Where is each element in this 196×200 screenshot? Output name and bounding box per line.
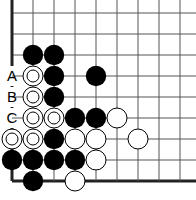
white-stone-marked bbox=[44, 108, 64, 128]
white-stone-marked bbox=[23, 66, 43, 86]
black-stone bbox=[23, 150, 43, 170]
black-stone bbox=[44, 87, 64, 107]
coordinate-label-c: C bbox=[7, 109, 18, 126]
white-stone bbox=[86, 129, 106, 149]
white-stone-marked bbox=[23, 87, 43, 107]
coordinate-label-a: A bbox=[7, 67, 17, 84]
black-stone bbox=[86, 108, 106, 128]
white-stone bbox=[86, 150, 106, 170]
black-stone bbox=[44, 150, 64, 170]
black-stone bbox=[65, 150, 85, 170]
white-stone-marked bbox=[23, 108, 43, 128]
white-stone-marked bbox=[2, 129, 22, 149]
white-stone-marked bbox=[23, 129, 43, 149]
black-stone bbox=[23, 45, 43, 65]
white-stone bbox=[65, 171, 85, 191]
black-stone bbox=[44, 66, 64, 86]
white-stone bbox=[107, 108, 127, 128]
black-stone bbox=[23, 171, 43, 191]
white-stone bbox=[65, 129, 85, 149]
white-stone bbox=[128, 129, 148, 149]
black-stone bbox=[65, 108, 85, 128]
black-stone bbox=[44, 129, 64, 149]
black-stone bbox=[44, 45, 64, 65]
go-board: ABC bbox=[0, 0, 196, 200]
coordinate-label-b: B bbox=[7, 88, 17, 105]
labels-layer: ABC bbox=[7, 67, 18, 126]
black-stone bbox=[2, 150, 22, 170]
black-stone bbox=[86, 66, 106, 86]
